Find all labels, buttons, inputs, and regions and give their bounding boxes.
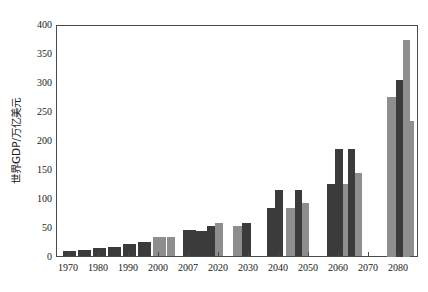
- y-tick-label-0: 0: [18, 252, 52, 262]
- bar-2000-b: [167, 237, 175, 256]
- x-tick-mark-2060: [338, 252, 339, 257]
- bar-2040-series-peak: [275, 190, 283, 256]
- bar-2007-a: [194, 231, 207, 257]
- y-tick-label-250: 250: [18, 107, 52, 117]
- x-tick-mark-2080: [398, 252, 399, 257]
- bar-2020-b: [242, 223, 251, 256]
- bar-1980-series-a: [93, 248, 106, 256]
- y-tick-label-400: 400: [18, 20, 52, 30]
- y-tick-label-200: 200: [18, 136, 52, 146]
- bar-2020-a: [233, 226, 242, 256]
- bar-1975-series-a: [78, 250, 91, 256]
- bar-2020-series-b: [215, 223, 223, 256]
- y-tick-label-150: 150: [18, 165, 52, 175]
- x-tick-label-2080: 2080: [378, 262, 418, 273]
- x-tick-mark-2040: [278, 252, 279, 257]
- x-tick-mark-2000: [158, 252, 159, 257]
- bar-2040-c: [302, 203, 309, 256]
- bar-2040-series-a: [267, 208, 275, 256]
- bar-2040-a: [286, 208, 295, 256]
- bar-1990-series-a: [123, 244, 136, 256]
- bar-2000-series-b: [153, 237, 166, 256]
- bar-2060-series-peak: [335, 149, 343, 256]
- chart-figure: 世界GDP/万亿美元 400 350 300 250 200 150 100 5…: [0, 0, 428, 292]
- x-tick-mark-2050: [308, 252, 309, 257]
- bar-2020-series-a: [207, 226, 215, 256]
- bar-2060-c: [355, 173, 362, 257]
- x-tick-mark-1990: [128, 252, 129, 257]
- bar-1995-series-a: [138, 242, 151, 257]
- y-tick-label-350: 350: [18, 49, 52, 59]
- x-tick-mark-2070: [368, 252, 369, 257]
- y-tick-label-300: 300: [18, 78, 52, 88]
- bar-2100-b: [396, 80, 403, 257]
- bar-2040-b: [295, 190, 302, 256]
- x-tick-mark-2030: [248, 252, 249, 257]
- x-tick-mark-1970: [68, 252, 69, 257]
- x-tick-mark-1980: [98, 252, 99, 257]
- x-tick-mark-2020: [218, 252, 219, 257]
- y-tick-label-100: 100: [18, 194, 52, 204]
- y-tick-label-50: 50: [18, 223, 52, 233]
- bar-2060-b: [348, 149, 355, 256]
- bar-2060-series-a: [327, 184, 335, 256]
- x-tick-mark-2007: [188, 252, 189, 257]
- bar-1970-series-a: [63, 251, 76, 256]
- bar-2007-series-a: [183, 230, 196, 256]
- bar-1985-series-a: [108, 247, 121, 256]
- plot-area: [56, 25, 418, 257]
- bar-2100-a: [387, 97, 396, 257]
- bar-2100-c: [403, 40, 410, 258]
